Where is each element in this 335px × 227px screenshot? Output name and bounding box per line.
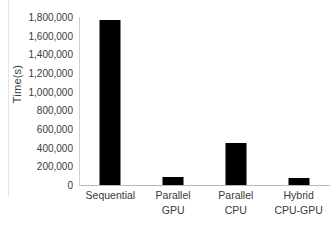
y-axis-tick-label: 800,000 [37, 105, 73, 116]
category-label-line1: Sequential [86, 189, 136, 201]
bar-chart: Time(s) 0200,000400,000600,000800,0001,0… [0, 0, 335, 227]
y-axis-tick-label: 1,800,000 [29, 12, 74, 23]
category-label-line2: CPU-GPU [264, 203, 334, 218]
y-axis-tick-label: 1,000,000 [29, 86, 74, 97]
y-axis-tick-labels: 0200,000400,000600,000800,0001,000,0001,… [18, 17, 76, 185]
x-axis-category-labels: SequentialParallelGPUParallelCPUHybridCP… [79, 188, 330, 226]
bar[interactable] [225, 143, 246, 185]
bar[interactable] [100, 20, 121, 185]
bar-slot [79, 17, 142, 185]
y-axis-tick-label: 600,000 [37, 124, 73, 135]
y-axis-tick-label: 200,000 [37, 161, 73, 172]
bar[interactable] [163, 177, 184, 185]
x-axis-category-label: ParallelGPU [138, 188, 208, 218]
x-axis-category-label: HybridCPU-GPU [264, 188, 334, 218]
category-label-line1: Hybrid [283, 189, 313, 201]
x-axis-category-label: ParallelCPU [201, 188, 271, 218]
y-axis-tick-label: 1,200,000 [29, 68, 74, 79]
category-label-line2: CPU [201, 203, 271, 218]
plot-area [79, 17, 330, 185]
y-axis-tick-label: 0 [67, 180, 73, 191]
bar-slot [205, 17, 268, 185]
bar-series [79, 17, 330, 185]
bar-slot [267, 17, 330, 185]
figure-left-rule [8, 0, 9, 196]
x-axis-line [79, 185, 330, 186]
bar-slot [142, 17, 205, 185]
y-axis-tick-label: 400,000 [37, 142, 73, 153]
y-axis-tick-label: 1,400,000 [29, 49, 74, 60]
bar[interactable] [288, 178, 309, 185]
category-label-line1: Parallel [156, 189, 191, 201]
x-axis-category-label: Sequential [75, 188, 145, 203]
category-label-line2: GPU [138, 203, 208, 218]
y-axis-tick-label: 1,600,000 [29, 30, 74, 41]
category-label-line1: Parallel [218, 189, 253, 201]
